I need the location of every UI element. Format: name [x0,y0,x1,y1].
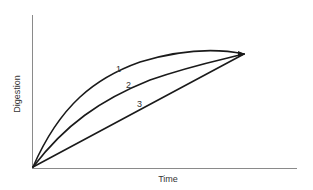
x-axis-label: Time [158,174,178,184]
y-axis-label: Digestion [12,75,22,113]
curve-3 [33,54,244,167]
curve-2-label: 2 [126,80,131,90]
curve-3-label: 3 [137,99,142,109]
digestion-time-chart: 1 2 3 Time Digestion [0,0,313,190]
curve-1-label: 1 [116,64,121,74]
